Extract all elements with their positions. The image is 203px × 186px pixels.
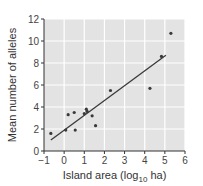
data-point — [67, 113, 70, 116]
y-axis-label: Mean number of alleles — [6, 27, 18, 142]
y-tick-label: 6 — [33, 80, 39, 91]
x-tick-label: 1 — [82, 155, 88, 166]
data-point — [169, 32, 172, 35]
x-tick-label: 3 — [122, 155, 128, 166]
x-axis-ticks: −10123456 — [38, 151, 188, 166]
data-point — [64, 129, 67, 132]
data-point — [148, 87, 151, 90]
x-axis-label: Island area (log10 ha) — [63, 169, 167, 184]
data-point — [73, 111, 76, 114]
x-tick-label: 6 — [182, 155, 188, 166]
y-tick-label: 8 — [33, 58, 39, 69]
data-point — [160, 55, 163, 58]
y-axis-ticks: 024681012 — [28, 14, 44, 157]
data-point — [94, 124, 97, 127]
x-tick-label: 0 — [61, 155, 67, 166]
x-tick-label: 2 — [102, 155, 108, 166]
data-point — [83, 112, 86, 115]
y-tick-label: 2 — [33, 124, 39, 135]
data-point — [74, 129, 77, 132]
data-point — [109, 89, 112, 92]
data-point — [86, 110, 89, 113]
data-point — [49, 132, 52, 135]
data-point — [91, 114, 94, 117]
y-tick-label: 12 — [28, 14, 40, 25]
x-tick-label: 4 — [142, 155, 148, 166]
scatter-chart: −10123456 024681012 Island area (log10 h… — [0, 0, 203, 186]
x-tick-label: −1 — [38, 155, 50, 166]
y-tick-label: 4 — [33, 102, 39, 113]
x-tick-label: 5 — [162, 155, 168, 166]
y-tick-label: 10 — [28, 36, 40, 47]
y-tick-label: 0 — [33, 146, 39, 157]
